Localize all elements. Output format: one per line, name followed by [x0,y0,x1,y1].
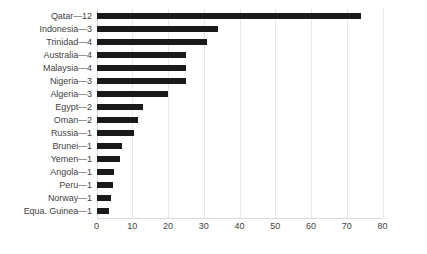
bar-row [97,153,383,166]
bar [97,104,143,110]
bar [97,13,362,19]
bar [97,65,186,71]
x-tick-label-10: 10 [127,221,137,231]
bar-row [97,48,383,61]
x-tick-label-60: 60 [306,221,316,231]
bar-row [97,35,383,48]
category-label: Russia—1 [0,127,92,140]
bar-row [97,74,383,87]
x-tick-label-40: 40 [234,221,244,231]
bar [97,156,120,162]
x-tick-label-50: 50 [270,221,280,231]
category-axis-labels: Qatar—12Indonesia—3Trinidad—4Australia—4… [0,9,92,218]
gridline-80 [383,9,384,218]
category-label: Brunei—1 [0,140,92,153]
bar [97,91,169,97]
bar-row [97,166,383,179]
category-label: Angola—1 [0,166,92,179]
x-tick-label-30: 30 [199,221,209,231]
bar [97,143,122,149]
bar [97,169,115,175]
category-label: Algeria—3 [0,87,92,100]
category-label: Egypt—2 [0,100,92,113]
category-label: Australia—4 [0,48,92,61]
bar-row [97,205,383,218]
bar [97,26,219,32]
bar [97,182,113,188]
category-label: Equa. Guinea—1 [0,205,92,218]
x-tick-label-70: 70 [342,221,352,231]
bar-row [97,9,383,22]
bar-row [97,114,383,127]
bar [97,52,186,58]
bar-row [97,127,383,140]
category-label: Malaysia—4 [0,61,92,74]
category-label: Trinidad—4 [0,35,92,48]
category-label: Norway—1 [0,192,92,205]
category-label: Qatar—12 [0,9,92,22]
x-axis-line [97,218,383,219]
bar [97,39,208,45]
category-label: Nigeria—3 [0,74,92,87]
bar [97,195,111,201]
category-label: Yemen—1 [0,153,92,166]
bar [97,130,135,136]
bar-series [97,9,383,218]
bar-chart: Qatar—12Indonesia—3Trinidad—4Australia—4… [0,0,427,254]
x-axis-tick-labels: 01020304050607080 [97,221,383,237]
category-label: Peru—1 [0,179,92,192]
bar-row [97,140,383,153]
x-tick-label-0: 0 [94,221,99,231]
category-label: Oman—2 [0,114,92,127]
bar [97,208,110,214]
bar-row [97,192,383,205]
bar-row [97,100,383,113]
bar-row [97,22,383,35]
plot-area [97,9,383,218]
category-label: Indonesia—3 [0,22,92,35]
bar [97,78,186,84]
x-tick-label-80: 80 [377,221,387,231]
bar-row [97,87,383,100]
bar-row [97,61,383,74]
bar [97,117,138,123]
bar-row [97,179,383,192]
x-tick-label-20: 20 [163,221,173,231]
